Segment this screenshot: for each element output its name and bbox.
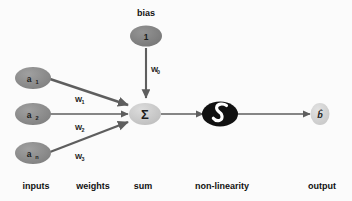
input-node-1-subscript: 1 [35, 79, 38, 85]
weight-1-subscript: 1 [82, 99, 85, 105]
sum-node[interactable]: Σ [129, 103, 161, 125]
neuron-diagram: bias 1 W 0 a 1 a 2 a n W [0, 0, 352, 201]
input-node-1[interactable]: a 1 [15, 67, 51, 89]
column-label-output: output [308, 181, 336, 191]
column-label-sum: sum [134, 181, 153, 191]
nonlinearity-node[interactable] [202, 102, 238, 127]
bias-weight-subscript: 0 [157, 69, 160, 75]
bias-weight-label: W 0 [151, 65, 160, 75]
input-node-n[interactable]: a n [15, 142, 51, 164]
output-node-symbol: b̂ [317, 109, 323, 120]
weight-label-1: W 1 [75, 95, 85, 105]
bias-node-value: 1 [144, 32, 149, 42]
output-node[interactable]: b̂ [311, 103, 330, 125]
weight-label-2: W 2 [75, 123, 85, 133]
edge-input-n-to-sum [50, 122, 128, 152]
column-label-nonlinearity: non-linearity [195, 181, 249, 191]
weight-2-subscript: 2 [82, 127, 85, 133]
input-node-n-letter: a [27, 149, 32, 159]
input-node-2[interactable]: a 2 [15, 103, 51, 125]
input-node-2-letter: a [27, 110, 32, 120]
input-node-2-subscript: 2 [35, 115, 38, 121]
input-node-n-subscript: n [35, 154, 39, 160]
diagram-canvas: bias 1 W 0 a 1 a 2 a n W [0, 0, 352, 201]
input-node-1-letter: a [27, 74, 32, 84]
sum-node-symbol: Σ [141, 107, 149, 122]
column-label-inputs: inputs [23, 181, 50, 191]
weight-label-3: W 3 [75, 152, 85, 162]
weight-3-subscript: 3 [82, 156, 85, 162]
column-label-weights: weights [75, 181, 110, 191]
bias-node[interactable]: 1 [130, 26, 162, 47]
bias-caption: bias [137, 8, 155, 18]
edge-input-1-to-sum [50, 79, 128, 105]
